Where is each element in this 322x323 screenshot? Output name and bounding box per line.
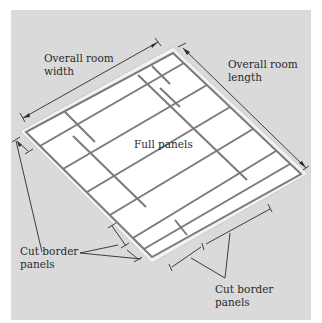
room-length-label: Overall room length [228,58,298,83]
ceiling-diagram: Overall room width Overall room length F… [0,0,322,323]
cut-border-left-label: Cut border panels [20,245,78,270]
cut-border-bottom-label: Cut border panels [215,283,273,308]
full-panels-label: Full panels [134,138,193,151]
room-width-label: Overall room width [44,52,114,77]
diagram-graphic [0,0,322,323]
